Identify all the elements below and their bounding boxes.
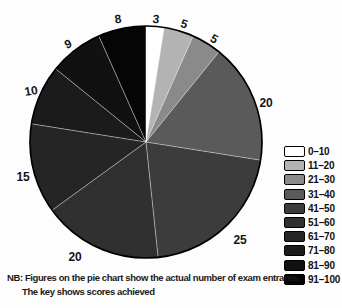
legend-swatch-icon <box>284 217 305 228</box>
slice-value-label-51-60: 20 <box>69 250 82 264</box>
slice-value-label-61-70: 15 <box>17 170 30 184</box>
legend-item: 61–70 <box>284 231 340 242</box>
legend-label: 31–40 <box>308 189 335 200</box>
legend: 0–10 11–20 21–30 31–40 41–50 51–60 61–70 <box>284 146 340 285</box>
legend-label: 11–20 <box>308 160 334 171</box>
legend-item: 31–40 <box>284 189 340 200</box>
legend-swatch-icon <box>284 245 305 256</box>
footnote-line-2: The key shows scores achieved <box>22 285 299 299</box>
legend-swatch-icon <box>284 174 305 185</box>
legend-label: 41–50 <box>308 203 335 214</box>
legend-item: 51–60 <box>284 217 340 228</box>
legend-item: 71–80 <box>284 245 340 256</box>
legend-label: 91–100 <box>308 274 340 285</box>
legend-label: 51–60 <box>308 217 335 228</box>
pie-chart-figure: 3 5 5 20 25 20 15 10 9 8 0–10 11–20 21–3… <box>0 0 342 308</box>
slice-value-label-41-50: 25 <box>234 233 247 247</box>
legend-swatch-icon <box>284 203 305 214</box>
legend-label: 81–90 <box>308 260 335 271</box>
legend-swatch-icon <box>284 160 305 171</box>
legend-swatch-icon <box>284 260 305 271</box>
legend-label: 0–10 <box>308 146 329 157</box>
legend-swatch-icon <box>284 146 305 157</box>
legend-item: 11–20 <box>284 160 340 171</box>
footnote: NB: Figures on the pie chart show the ac… <box>7 271 299 299</box>
legend-label: 61–70 <box>308 231 335 242</box>
footnote-line-1: NB: Figures on the pie chart show the ac… <box>7 271 299 285</box>
legend-item: 21–30 <box>284 174 340 185</box>
legend-item: 81–90 <box>284 260 340 271</box>
legend-item: 41–50 <box>284 203 340 214</box>
legend-swatch-icon <box>284 189 305 200</box>
slice-value-label-31-40: 20 <box>260 96 273 110</box>
slice-value-label-71-80: 10 <box>23 83 38 99</box>
legend-item: 0–10 <box>284 146 340 157</box>
legend-label: 21–30 <box>308 174 335 185</box>
legend-swatch-icon <box>284 231 305 242</box>
legend-label: 71–80 <box>308 245 335 256</box>
